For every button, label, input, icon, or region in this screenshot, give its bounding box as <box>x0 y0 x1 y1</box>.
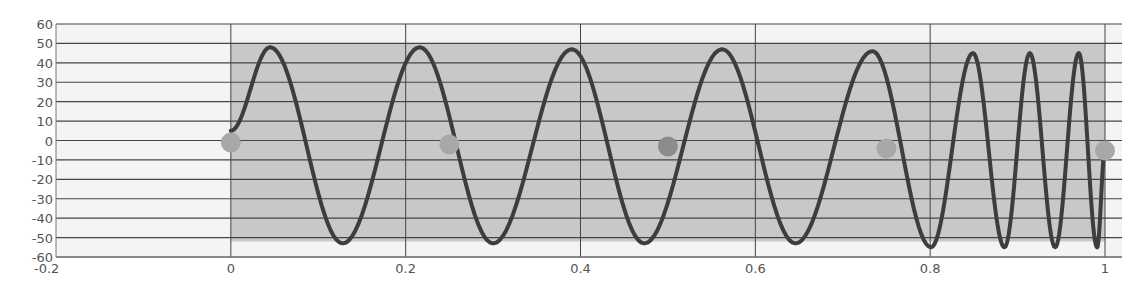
y-tick-label: 0 <box>45 134 53 149</box>
x-tick-label: 0.6 <box>745 261 766 276</box>
y-tick-label: -50 <box>32 231 53 246</box>
y-tick-label: 50 <box>36 36 53 51</box>
x-axis-tick-labels: -0.200.20.40.60.81 <box>34 261 1109 276</box>
y-tick-label: -40 <box>32 211 53 226</box>
marker-point <box>876 139 896 159</box>
y-tick-label: -10 <box>32 153 53 168</box>
y-tick-label: -20 <box>32 172 53 187</box>
x-tick-label: 0.2 <box>395 261 416 276</box>
x-tick-label: 0.4 <box>570 261 591 276</box>
y-tick-label: 20 <box>36 95 53 110</box>
y-tick-label: 60 <box>36 17 53 32</box>
y-tick-label: 40 <box>36 56 53 71</box>
x-tick-label: 0.8 <box>920 261 941 276</box>
x-tick-label: 1 <box>1101 261 1109 276</box>
marker-point <box>439 135 459 155</box>
marker-point <box>658 137 678 157</box>
y-tick-label: 30 <box>36 75 53 90</box>
x-tick-label: -0.2 <box>34 261 59 276</box>
y-tick-label: 10 <box>36 114 53 129</box>
marker-point <box>221 133 241 153</box>
marker-point <box>1095 141 1115 161</box>
chart: 6050403020100-10-20-30-40-50-60 -0.200.2… <box>0 0 1132 300</box>
line-chart-plot: 6050403020100-10-20-30-40-50-60 -0.200.2… <box>0 0 1132 300</box>
y-tick-label: -30 <box>32 192 53 207</box>
y-axis-tick-labels: 6050403020100-10-20-30-40-50-60 <box>32 17 53 265</box>
x-tick-label: 0 <box>227 261 235 276</box>
